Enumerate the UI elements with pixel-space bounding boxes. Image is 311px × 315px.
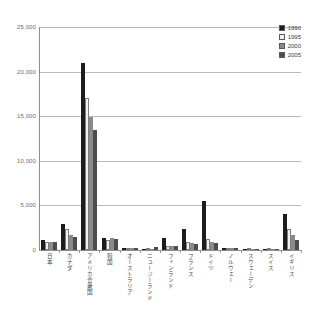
legend-label: 1990 bbox=[288, 25, 301, 31]
legend-label: 1995 bbox=[288, 34, 301, 40]
bar bbox=[255, 249, 259, 250]
bar bbox=[114, 239, 118, 250]
x-axis-category-label: 韓国 bbox=[107, 253, 113, 265]
bar-chart: 25,00020,00015,00010,0005,0000 日本カナダアメリカ… bbox=[0, 0, 311, 315]
bar-group bbox=[80, 27, 98, 250]
x-axis-category-label: カナダ bbox=[66, 253, 72, 271]
legend-label: 2000 bbox=[288, 43, 301, 49]
y-axis-tick-label: 10,000 bbox=[17, 158, 36, 164]
bar-group bbox=[40, 27, 58, 250]
bar-group bbox=[101, 27, 119, 250]
x-axis-category-label: ニュージーランド bbox=[147, 253, 153, 301]
bar-group bbox=[60, 27, 78, 250]
bar-group bbox=[282, 27, 300, 250]
legend-swatch bbox=[279, 52, 285, 58]
x-axis-category-label: スウェーデン bbox=[248, 253, 254, 289]
legend-item: 2005 bbox=[279, 51, 301, 59]
y-axis-tick-label: 20,000 bbox=[17, 69, 36, 75]
bar-group bbox=[201, 27, 219, 250]
y-axis-tick-label: 5,000 bbox=[20, 202, 36, 208]
bar-group bbox=[262, 27, 280, 250]
x-axis-category-label: フランス bbox=[187, 253, 193, 277]
bar bbox=[93, 130, 97, 250]
x-axis-category-label: オーストラリア bbox=[127, 253, 133, 295]
x-axis-category-label: スイス bbox=[268, 253, 274, 271]
legend-swatch bbox=[279, 34, 285, 40]
bar bbox=[275, 249, 279, 250]
bar-group bbox=[181, 27, 199, 250]
x-axis-category-labels: 日本カナダアメリカ合衆国韓国オーストラリアニュージーランドフィンランドフランスド… bbox=[39, 253, 301, 313]
bar bbox=[194, 244, 198, 250]
y-axis-tick-label: 25,000 bbox=[17, 24, 36, 30]
x-axis-line bbox=[39, 250, 301, 251]
bar-group bbox=[121, 27, 139, 250]
legend-swatch bbox=[279, 25, 285, 31]
bar bbox=[174, 246, 178, 250]
bar-group bbox=[221, 27, 239, 250]
bar bbox=[214, 243, 218, 250]
x-axis-category-label: 日本 bbox=[46, 253, 52, 265]
bars-layer bbox=[39, 27, 301, 250]
legend-swatch bbox=[279, 43, 285, 49]
legend-item: 2000 bbox=[279, 42, 301, 50]
bar bbox=[234, 248, 238, 250]
y-axis-tick-label: 15,000 bbox=[17, 113, 36, 119]
bar bbox=[295, 240, 299, 250]
bar-group bbox=[161, 27, 179, 250]
x-axis-category-label: フィンランド bbox=[167, 253, 173, 289]
y-axis-tick-labels: 25,00020,00015,00010,0005,0000 bbox=[0, 27, 36, 250]
bar bbox=[134, 248, 138, 250]
y-axis-tick-label: 0 bbox=[33, 247, 36, 253]
x-axis-tick bbox=[301, 250, 302, 253]
legend: 1990199520002005 bbox=[279, 24, 301, 59]
legend-label: 2005 bbox=[288, 52, 301, 58]
x-axis-category-label: アメリカ合衆国 bbox=[86, 253, 92, 295]
x-axis-category-label: ドイツ bbox=[207, 253, 213, 271]
x-axis-category-label: ノルウェー bbox=[227, 253, 233, 283]
legend-item: 1990 bbox=[279, 24, 301, 32]
bar bbox=[73, 237, 77, 250]
x-axis-category-label: イギリス bbox=[288, 253, 294, 277]
bar bbox=[53, 242, 57, 250]
bar-group bbox=[242, 27, 260, 250]
bar bbox=[154, 247, 158, 250]
legend-item: 1995 bbox=[279, 33, 301, 41]
bar-group bbox=[141, 27, 159, 250]
